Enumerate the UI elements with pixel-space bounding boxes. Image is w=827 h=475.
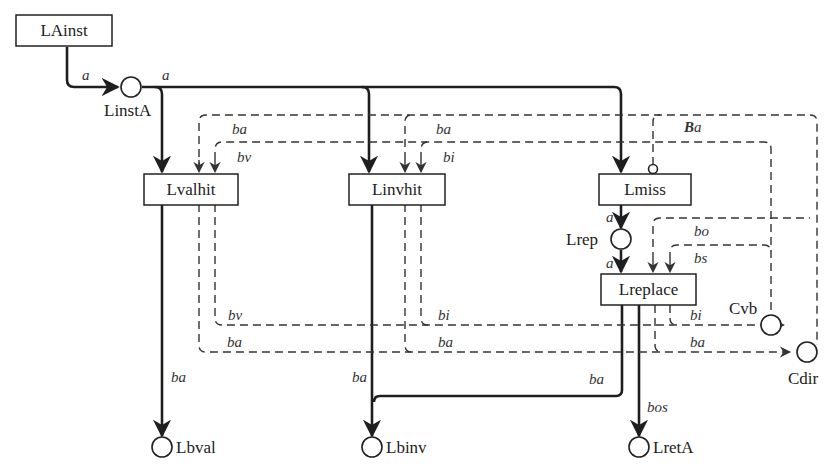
arc-label: ba — [232, 122, 247, 137]
arc-label: a — [606, 256, 614, 271]
place-cvb — [761, 315, 781, 335]
place-label: LinstA — [104, 102, 151, 119]
arc-label: a — [162, 68, 170, 83]
arc-label: bo — [694, 224, 709, 239]
arc-linsta-lvalhit — [155, 87, 162, 172]
transition-label: LAinst — [16, 22, 112, 39]
arc-label: Ba — [684, 120, 702, 135]
arc-bs-lreplace — [670, 245, 771, 260]
arc-label: a — [82, 68, 90, 83]
transition-label: Linvhit — [349, 181, 445, 198]
arc-linvhit-cdir — [405, 204, 412, 352]
arc-lreplace-lbinv — [374, 305, 622, 402]
arc-cdir-ba-top — [199, 115, 817, 345]
arc-label: bos — [647, 400, 668, 415]
place-lrep — [611, 229, 631, 249]
inhibitor-circle-icon — [649, 165, 658, 174]
arc-label: bi — [443, 150, 455, 165]
arc-label: ba — [690, 335, 705, 350]
place-lbinv — [362, 437, 382, 457]
transition-label: Lvalhit — [144, 181, 238, 198]
place-label: Cdir — [788, 370, 818, 387]
arc-lainst-linsta — [67, 47, 118, 87]
transition-label: Lreplace — [601, 281, 696, 298]
arc-label: ba — [436, 122, 451, 137]
place-label: Lbval — [176, 439, 216, 456]
arc-bo-lreplace — [653, 218, 810, 260]
place-label: LretA — [653, 439, 694, 456]
place-cdir — [797, 342, 817, 362]
arc-label-suffix: a — [694, 119, 702, 135]
arc-label: ba — [438, 335, 453, 350]
arc-linvhit-cvb — [421, 204, 428, 325]
arc-label: bi — [690, 308, 702, 323]
arc-label: bi — [438, 308, 450, 323]
arc-label: ba — [589, 372, 604, 387]
arc-lreplace-cvb — [670, 305, 677, 325]
place-lbval — [152, 437, 172, 457]
transition-label: Lmiss — [599, 181, 691, 198]
arc-ba-lmiss-inhibitor — [653, 115, 660, 165]
place-label: Lrep — [566, 231, 598, 248]
place-label: Lbinv — [386, 439, 427, 456]
arc-linsta-linvhit — [362, 87, 369, 172]
arc-label: ba — [171, 370, 186, 385]
arc-label-prefix: B — [684, 119, 694, 135]
arc-lreplace-cdir — [655, 305, 662, 352]
arc-ba-linvhit — [405, 115, 412, 160]
arc-label: bv — [228, 308, 242, 323]
place-label: Cvb — [729, 300, 757, 317]
place-lreta — [629, 437, 649, 457]
arc-label: bv — [237, 150, 251, 165]
arc-label: ba — [227, 335, 242, 350]
arc-label: ba — [352, 370, 367, 385]
arc-linsta-lmiss — [142, 87, 621, 172]
arc-label: bs — [694, 251, 707, 266]
arc-bi-linvhit — [421, 142, 428, 160]
place-linsta — [121, 77, 141, 97]
arc-label: a — [606, 210, 614, 225]
